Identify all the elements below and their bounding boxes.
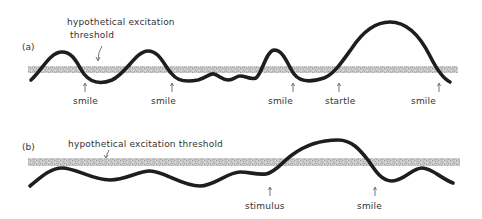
panel-a: (a) hypothetical excitation threshold sm… [22,17,458,106]
threshold-pointer-arrow [98,46,102,60]
event-smile-4: smile [411,83,441,106]
threshold-label-line2: threshold [70,30,114,40]
event-label: smile [151,96,176,106]
event-smile: smile [357,187,382,211]
panel-b-label: (b) [22,142,35,152]
event-label: smile [268,96,293,106]
event-markers-a: smile smile smile startle smile [73,83,441,106]
threshold-label: hypothetical excitation threshold [68,139,223,149]
event-startle: startle [325,83,356,106]
event-stimulus: stimulus [245,187,285,211]
event-label: smile [411,96,436,106]
event-label: stimulus [245,201,285,211]
event-label: smile [357,201,382,211]
event-smile-2: smile [151,83,176,106]
panel-a-label: (a) [22,42,35,52]
threshold-label-line1: hypothetical excitation [67,17,175,27]
event-markers-b: stimulus smile [245,187,382,211]
event-smile-1: smile [73,83,98,106]
threshold-band [28,66,458,73]
excitation-threshold-diagram: (a) hypothetical excitation threshold sm… [0,0,482,219]
event-smile-3: smile [268,83,295,106]
event-label: smile [73,96,98,106]
event-label: startle [325,96,356,106]
threshold-band [28,158,460,166]
panel-b: (b) hypothetical excitation threshold st… [22,139,460,211]
